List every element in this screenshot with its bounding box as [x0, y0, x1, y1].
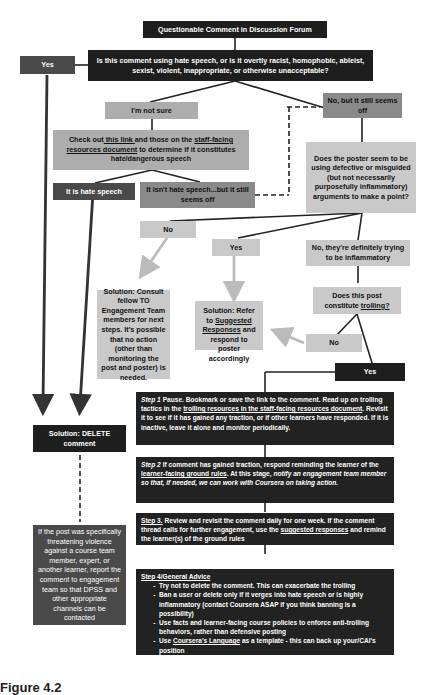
courseras-language-link[interactable]: Coursera's Language: [173, 637, 240, 644]
question-trolling: Does this post constitute trolling?: [313, 287, 401, 314]
answer-yes: Yes: [20, 56, 75, 74]
answer-inflammatory: No, they're definitely trying to be infl…: [306, 240, 410, 266]
answer-yes-defective: Yes: [212, 239, 260, 256]
this-link[interactable]: this link: [104, 135, 135, 144]
answer-no-but-off: No, but it still seems off: [323, 93, 402, 118]
answer-is-hate-speech: It is hate speech: [53, 183, 135, 200]
trolling-resources-link[interactable]: trolling resources in the staff-facing r…: [183, 405, 362, 412]
question-hate-speech: Is this comment using hate speech, or is…: [88, 50, 373, 81]
answer-no: No: [140, 221, 196, 238]
question-defective-arguments: Does the poster seem to be using defecti…: [306, 142, 416, 213]
step-4-box: Step 4/General Advice Try not to delete …: [136, 569, 394, 655]
solution-suggested-responses: Solution: Refer to Suggested Responses a…: [195, 301, 263, 350]
advice-item: Use facts and learner-facing course poli…: [159, 618, 389, 636]
answer-yes-trolling: Yes: [335, 363, 405, 381]
answer-no-trolling: No: [306, 334, 362, 352]
suggested-responses-link-2[interactable]: suggested responses: [281, 526, 349, 533]
threat-report-box: If the post was specifically threatening…: [33, 525, 126, 625]
advice-item: Try not to delete the comment. This can …: [159, 581, 389, 590]
answer-isnt-hate-speech: It isn't hate speech...but it still seem…: [140, 182, 255, 208]
step-3-box: Step 3. Review and revisit the comment d…: [136, 513, 394, 545]
advice-item: Use Coursera's Language as a template - …: [159, 636, 389, 654]
answer-not-sure: I'm not sure: [105, 102, 198, 119]
title-box: Questionable Comment in Discussion Forum: [143, 21, 327, 38]
ground-rules-link[interactable]: learner-facing ground rules: [141, 470, 227, 477]
advice-item: Ban a user or delete only if it verges i…: [159, 590, 389, 618]
figure-caption: Figure 4.2: [0, 680, 61, 695]
check-resources-box: Check out this link and those on the sta…: [53, 130, 249, 170]
solution-delete: Solution: DELETE comment: [33, 425, 126, 452]
step-2-box: Step 2 If comment has gained traction, r…: [136, 457, 394, 503]
solution-consult-team: Solution: Consult fellow TO Engagement T…: [97, 290, 170, 379]
step-1-box: Step 1 Pause. Bookmark or save the link …: [136, 392, 394, 445]
trolling-link[interactable]: trolling?: [361, 301, 390, 310]
